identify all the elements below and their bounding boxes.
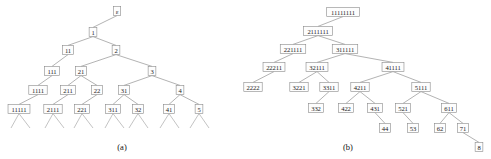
tree-node-label: 3311 [323,84,336,91]
panel-caption: (b) [343,142,353,152]
tree-node[interactable]: 2111111 [303,26,332,35]
tree-node[interactable]: 1 [89,27,97,36]
tree-edge [318,36,345,45]
tree-node[interactable]: 221 [75,104,90,113]
tree-edge [68,37,93,46]
tree-node[interactable]: 1111 [29,85,47,94]
tree-node-label: 311 [108,106,117,113]
tree-node-label: 11111111 [331,9,355,16]
tree-edge [52,55,68,67]
tree-node[interactable]: 41111 [382,62,404,71]
tree-node[interactable]: 611 [442,103,457,112]
tree-node[interactable]: 422 [339,103,354,112]
tree-edge [440,113,449,124]
tree-stub-edge [11,114,19,128]
tree-node[interactable]: 431 [368,103,383,112]
tree-node[interactable]: 31 [118,85,129,94]
tree-node[interactable]: 3 [148,66,156,75]
tree-node[interactable]: 71 [457,123,468,132]
tree-node[interactable]: 3221 [290,82,308,91]
panel-a: ε111211121311112112231411111211122131132… [8,6,209,152]
tree-node-label: 62 [437,125,443,132]
tree-edge [346,92,360,104]
tree-stub-edge [169,114,179,128]
tree-node[interactable]: 11 [62,45,73,54]
tree-node[interactable]: 11111111 [327,7,360,16]
tree-stub-edge [19,114,30,128]
tree-node-label: 311111 [336,46,354,53]
tree-edge [68,76,81,86]
panel-b: 1111111121111112211113111112221132111411… [244,7,483,152]
tree-edge [375,113,385,124]
tree-node[interactable]: 2 [112,45,120,54]
tree-node-label: 71 [460,125,466,132]
tree-node[interactable]: 332 [309,103,324,112]
tree-edge [463,133,479,143]
tree-edge [93,37,116,46]
tree-node-label: 221111 [284,46,302,53]
tree-node[interactable]: 22211 [263,62,285,71]
tree-node[interactable]: 3311 [320,82,338,91]
tree-edge [38,76,52,86]
tree-node[interactable]: ε [113,6,120,15]
tree-node[interactable]: 2111 [44,104,62,113]
tree-node-label: 521 [398,105,408,112]
tree-node[interactable]: 211 [61,85,76,94]
tree-node[interactable]: 2222 [244,82,262,91]
tree-edge [124,95,138,105]
tree-node[interactable]: 11111 [8,104,30,113]
tree-node-label: 53 [410,125,417,132]
tree-node-label: 21 [78,68,84,75]
tree-node-label: 41111 [385,64,400,71]
panel-caption: (a) [117,142,127,152]
tree-node-label: 111 [47,68,56,75]
tree-edge [299,72,317,83]
tree-node-label: 431 [370,105,380,112]
tree-node[interactable]: 4211 [351,82,369,91]
tree-node[interactable]: 8 [475,142,483,151]
tree-node[interactable]: 41 [163,104,174,113]
tree-edge [113,95,124,105]
tree-node[interactable]: 32111 [306,62,328,71]
tree-node[interactable]: 5111 [412,82,430,91]
tree-edge [318,17,343,27]
figure-container: ε111211121311112112231411111211122131132… [0,0,491,159]
tree-node-label: 2222 [247,84,260,91]
tree-node-label: 1 [91,29,94,36]
tree-node[interactable]: 111 [45,66,60,75]
tree-node-label: 32111 [309,64,325,71]
tree-leaf-stubs [11,114,209,128]
tree-node[interactable]: 5 [195,104,203,113]
tree-edge [403,92,421,104]
tree-edge [116,55,152,67]
tree-node-label: 2 [114,47,117,54]
tree-node[interactable]: 53 [407,123,418,132]
tree-stub-edge [160,114,169,128]
tree-edge [360,92,375,104]
tree-stub-edge [105,114,113,128]
tree-edge [449,113,463,124]
tree-node-label: 44 [382,125,389,132]
tree-node[interactable]: 21 [75,66,86,75]
tree-node[interactable]: 22 [91,85,102,94]
tree-node-label: 2111 [47,106,59,113]
tree-edge [360,72,393,83]
tree-edge [253,72,274,83]
tree-edge [82,95,97,105]
tree-node[interactable]: 4 [176,85,184,94]
tree-node-label: 11 [65,47,71,54]
tree-stub-edge [138,114,148,128]
tree-node-label: 332 [311,105,321,112]
tree-node[interactable]: 44 [379,123,390,132]
tree-node[interactable]: 32 [132,104,143,113]
tree-edge [316,92,329,104]
tree-edge [81,76,97,86]
tree-edge [169,95,180,105]
tree-node[interactable]: 62 [434,123,445,132]
tree-node[interactable]: 221111 [280,44,306,53]
tree-stub-edge [113,114,124,128]
tree-node[interactable]: 311 [106,104,121,113]
tree-stub-edge [82,114,93,128]
tree-node[interactable]: 311111 [332,44,358,53]
tree-node[interactable]: 521 [396,103,411,112]
